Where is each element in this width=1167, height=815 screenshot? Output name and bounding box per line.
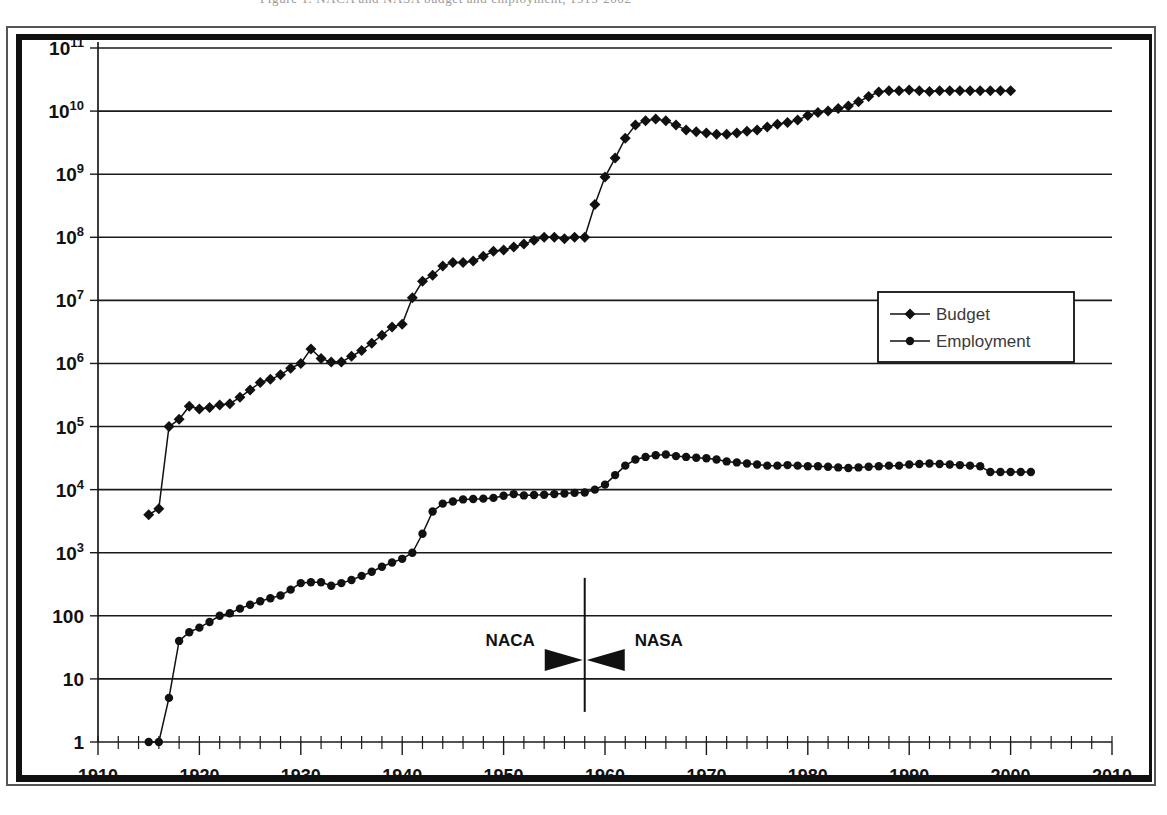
data-point-budget xyxy=(711,129,722,140)
legend-label-employment[interactable]: Employment xyxy=(936,332,1031,351)
page-title: Figure 1. NACA and NASA budget and emplo… xyxy=(260,0,632,7)
data-point-employment xyxy=(804,462,812,470)
data-point-budget xyxy=(529,235,540,246)
data-point-budget xyxy=(275,369,286,380)
data-point-employment xyxy=(793,461,801,469)
data-point-employment xyxy=(966,461,974,469)
data-point-budget xyxy=(985,85,996,96)
data-point-employment xyxy=(591,485,599,493)
data-point-budget xyxy=(518,239,529,250)
data-point-employment xyxy=(510,490,518,498)
data-point-employment xyxy=(499,492,507,500)
data-point-employment xyxy=(1006,468,1014,476)
budget-employment-log-chart: 11010010310410510610710810910101011 1910… xyxy=(6,26,1156,786)
data-point-employment xyxy=(753,460,761,468)
x-axis-group xyxy=(98,736,1112,755)
data-point-employment xyxy=(489,494,497,502)
data-point-employment xyxy=(834,463,842,471)
data-point-budget xyxy=(407,292,418,303)
data-point-budget xyxy=(600,172,611,183)
x-tick-label: 1920 xyxy=(179,766,219,786)
nasa-arrow-icon xyxy=(587,649,625,671)
data-point-employment xyxy=(195,623,203,631)
data-point-employment xyxy=(347,576,355,584)
data-point-budget xyxy=(853,96,864,107)
data-point-employment xyxy=(226,609,234,617)
data-point-budget xyxy=(336,357,347,368)
data-point-employment xyxy=(520,491,528,499)
data-point-budget xyxy=(812,107,823,118)
data-point-employment xyxy=(530,491,538,499)
data-point-employment xyxy=(1027,468,1035,476)
data-point-employment xyxy=(337,579,345,587)
data-point-budget xyxy=(691,126,702,137)
data-point-budget xyxy=(143,509,154,520)
data-point-budget xyxy=(752,125,763,136)
data-point-budget xyxy=(883,85,894,96)
data-point-employment xyxy=(327,582,335,590)
data-point-budget xyxy=(782,117,793,128)
data-point-budget xyxy=(681,125,692,136)
data-point-employment xyxy=(672,452,680,460)
data-point-employment xyxy=(641,453,649,461)
data-point-employment xyxy=(246,601,254,609)
x-tick-label: 1940 xyxy=(382,766,422,786)
data-point-employment xyxy=(266,594,274,602)
y-tick-label: 10 xyxy=(63,669,84,690)
data-point-budget xyxy=(833,103,844,114)
data-point-budget xyxy=(295,358,306,369)
data-point-budget xyxy=(417,276,428,287)
data-point-budget xyxy=(224,398,235,409)
data-point-budget xyxy=(508,242,519,253)
data-point-employment xyxy=(905,460,913,468)
data-point-budget xyxy=(194,403,205,414)
data-point-employment xyxy=(895,461,903,469)
data-point-employment xyxy=(175,637,183,645)
data-point-budget xyxy=(1005,85,1016,96)
data-point-employment xyxy=(479,494,487,502)
data-point-budget xyxy=(904,85,915,96)
data-point-budget xyxy=(924,86,935,97)
data-point-budget xyxy=(478,251,489,262)
legend-box[interactable] xyxy=(878,292,1074,362)
data-point-employment xyxy=(459,495,467,503)
data-point-employment xyxy=(875,462,883,470)
data-point-budget xyxy=(650,113,661,124)
data-point-budget xyxy=(721,129,732,140)
y-tick-label: 106 xyxy=(56,350,84,374)
data-point-budget xyxy=(934,85,945,96)
data-point-employment xyxy=(814,462,822,470)
data-point-employment xyxy=(368,568,376,576)
data-point-budget xyxy=(559,233,570,244)
x-tick-label: 1960 xyxy=(585,766,625,786)
data-point-employment xyxy=(864,463,872,471)
data-point-employment xyxy=(256,597,264,605)
legend-group[interactable]: BudgetEmployment xyxy=(878,292,1074,362)
data-point-employment xyxy=(692,454,700,462)
data-point-budget xyxy=(894,85,905,96)
legend-label-budget[interactable]: Budget xyxy=(936,305,990,324)
data-point-budget xyxy=(670,120,681,131)
data-point-employment xyxy=(763,461,771,469)
x-tick-label: 1980 xyxy=(788,766,828,786)
data-point-budget xyxy=(285,363,296,374)
data-point-budget xyxy=(255,377,266,388)
data-point-employment xyxy=(155,738,163,746)
data-point-employment xyxy=(408,549,416,557)
data-point-employment xyxy=(915,460,923,468)
x-tick-label: 1970 xyxy=(686,766,726,786)
data-point-employment xyxy=(885,461,893,469)
data-point-employment xyxy=(925,459,933,467)
x-tick-labels-group: 1910192019301940195019601970198019902000… xyxy=(78,766,1132,786)
data-point-employment xyxy=(652,451,660,459)
data-point-budget xyxy=(234,392,245,403)
data-point-employment xyxy=(1017,468,1025,476)
legend-marker-circle-icon xyxy=(906,337,914,345)
data-point-budget xyxy=(265,374,276,385)
data-point-employment xyxy=(946,460,954,468)
data-point-employment xyxy=(733,458,741,466)
y-tick-labels-group: 11010010310410510610710810910101011 xyxy=(48,35,84,753)
data-point-employment xyxy=(388,558,396,566)
x-tick-label: 1910 xyxy=(78,766,118,786)
data-point-employment xyxy=(712,455,720,463)
